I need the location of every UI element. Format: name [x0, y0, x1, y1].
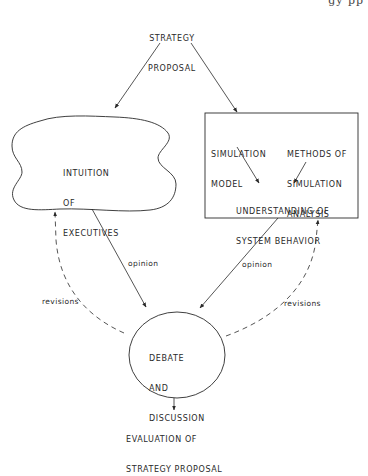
intuition-line3: EXECUTIVES [63, 229, 119, 239]
evaluation-line1: EVALUATION OF [126, 435, 222, 445]
debate-line1: DEBATE [149, 354, 205, 364]
node-understanding-of-system-behavior: UNDERSTANDING OF SYSTEM BEHAVIOR [236, 187, 329, 257]
simulation-model-line1: SIMULATION [211, 150, 266, 160]
node-strategy-proposal: STRATEGY PROPOSAL [148, 14, 196, 84]
methods-line1: METHODS OF [287, 150, 347, 160]
strategy-proposal-line1: STRATEGY [148, 34, 196, 44]
understanding-line2: SYSTEM BEHAVIOR [236, 237, 329, 247]
node-evaluation-of-strategy-proposal: EVALUATION OF STRATEGY PROPOSAL [126, 415, 222, 476]
edge-label-revisions-right: revisions [284, 299, 321, 309]
strategy-proposal-line2: PROPOSAL [148, 64, 196, 74]
arrow-proposal-to-simulation [191, 43, 237, 112]
edge-label-opinion-left: opinion [128, 259, 158, 269]
evaluation-line2: STRATEGY PROPOSAL [126, 465, 222, 475]
edge-label-revisions-left: revisions [42, 297, 79, 307]
intuition-line1: INTUITION [63, 169, 119, 179]
intuition-line2: OF [63, 199, 119, 209]
edge-label-opinion-right: opinion [242, 260, 272, 270]
debate-line2: AND [149, 384, 205, 394]
node-intuition-of-executives: INTUITION OF EXECUTIVES [63, 149, 119, 249]
understanding-line1: UNDERSTANDING OF [236, 207, 329, 217]
